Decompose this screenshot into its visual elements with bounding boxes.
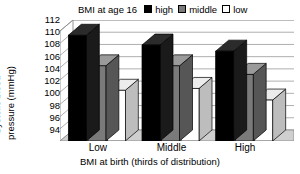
y-axis-tick-labels: 112110108106104102100989694 [36, 20, 60, 141]
y-tick-110: 110 [45, 27, 60, 37]
x-axis-label: BMI at birth (thirds of distribution) [0, 156, 300, 167]
y-tick-100: 100 [44, 88, 60, 98]
y-tick-104: 104 [44, 64, 60, 74]
x-category-high: High [215, 142, 275, 153]
y-tick-96: 96 [49, 113, 60, 123]
plot-area: 112110108106104102100989694 [36, 20, 294, 141]
y-tick-102: 102 [44, 76, 60, 86]
y-tick-108: 108 [44, 39, 60, 49]
y-tick-98: 98 [49, 101, 60, 111]
legend-entry-middle: middle [178, 4, 217, 15]
chart-root: BMI at age 16 high middle low Systolic b… [0, 0, 300, 174]
x-category-middle: Middle [142, 142, 202, 153]
legend-entry-high: high [144, 4, 173, 15]
y-axis-label-line-2: pressure (mmHg) [5, 66, 16, 140]
legend-swatch-middle [178, 5, 186, 13]
y-axis-label: Systolic blood pressure (mmHg) [0, 18, 34, 140]
y-tick-94: 94 [49, 125, 60, 135]
legend-title: BMI at age 16 [78, 4, 137, 15]
plot-canvas [60, 20, 294, 141]
legend-label-high: high [155, 4, 173, 15]
y-tick-112: 112 [45, 15, 60, 25]
legend-swatch-low [222, 5, 230, 13]
legend-label-middle: middle [189, 4, 217, 15]
chart-legend: BMI at age 16 high middle low [78, 1, 298, 17]
bars-svg [60, 20, 294, 141]
legend-swatch-high [144, 5, 152, 13]
y-axis-label-line-1: Systolic blood [0, 75, 2, 134]
x-axis-category-labels: LowMiddleHigh [60, 142, 298, 156]
legend-label-low: low [233, 4, 247, 15]
x-category-low: Low [68, 142, 128, 153]
legend-entry-low: low [222, 4, 247, 15]
y-tick-106: 106 [44, 52, 60, 62]
